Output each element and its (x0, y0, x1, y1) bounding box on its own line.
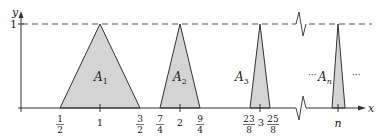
svg-text:3: 3 (137, 114, 143, 124)
svg-text:1: 1 (57, 114, 63, 124)
svg-text:2: 2 (137, 125, 143, 135)
svg-text:2: 2 (57, 125, 63, 135)
y-tick-label: 1 (10, 18, 17, 31)
svg-text:8: 8 (270, 125, 276, 135)
tick-label-3: 3 (258, 117, 264, 128)
triangle-an (332, 24, 345, 108)
triangle-a1 (60, 24, 140, 108)
ellipsis-right: ··· (352, 70, 361, 80)
svg-text:25: 25 (267, 114, 279, 124)
tick-label-2: 2 (177, 117, 183, 128)
tick-label-7-4: 7 4 (156, 114, 164, 135)
x-axis-label: x (368, 102, 375, 115)
triangle-areas-diagram: y 1 x A1 A2 A3 An ··· ··· 1 2 1 3 2 7 4 … (0, 0, 377, 139)
triangle-a2 (160, 24, 200, 108)
region-label-an: An (317, 70, 332, 86)
tick-label-9-4: 9 4 (196, 114, 204, 135)
svg-text:9: 9 (197, 114, 203, 124)
x-axis-arrow-icon (358, 106, 366, 111)
tick-label-3-2: 3 2 (136, 114, 144, 135)
ellipsis-left: ··· (308, 70, 317, 80)
svg-text:7: 7 (157, 114, 163, 124)
break-mark-bottom (296, 96, 306, 120)
region-label-a3: A3 (234, 70, 249, 86)
svg-text:8: 8 (246, 125, 252, 135)
svg-text:4: 4 (157, 125, 163, 135)
y-axis-arrow-icon (19, 11, 24, 18)
tick-label-1: 1 (97, 117, 103, 128)
tick-label-1-2: 1 2 (56, 114, 64, 135)
break-mark-top (296, 12, 306, 36)
tick-label-23-8: 23 8 (243, 114, 255, 135)
svg-text:23: 23 (243, 114, 255, 124)
tick-label-25-8: 25 8 (267, 114, 279, 135)
triangle-a3 (250, 24, 270, 108)
tick-label-n: n (334, 117, 341, 130)
svg-text:4: 4 (197, 125, 203, 135)
